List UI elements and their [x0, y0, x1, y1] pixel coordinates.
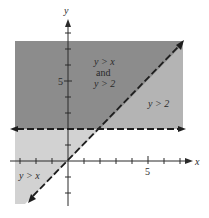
x-tick-label-5: 5	[145, 166, 150, 177]
x-axis-arrow-icon	[185, 158, 193, 164]
region-both-label-line3: y > 2	[93, 78, 115, 89]
region-both-label-line2: and	[96, 67, 110, 78]
region-medium-label: y > 2	[147, 98, 169, 109]
y-tick-label-5: 5	[58, 76, 63, 87]
region-light-label: y > x	[18, 170, 40, 181]
left-arrow-icon	[10, 126, 18, 132]
region-y-gt-x-only	[15, 129, 100, 204]
region-both-label-line1: y > x	[93, 56, 115, 67]
y-axis-label: y	[63, 5, 69, 16]
inequality-graph: y x 5 5 y > x and y > 2 y > 2 y > x	[0, 0, 209, 218]
x-axis-label: x	[194, 156, 200, 167]
y-axis-arrow-icon	[65, 19, 71, 27]
